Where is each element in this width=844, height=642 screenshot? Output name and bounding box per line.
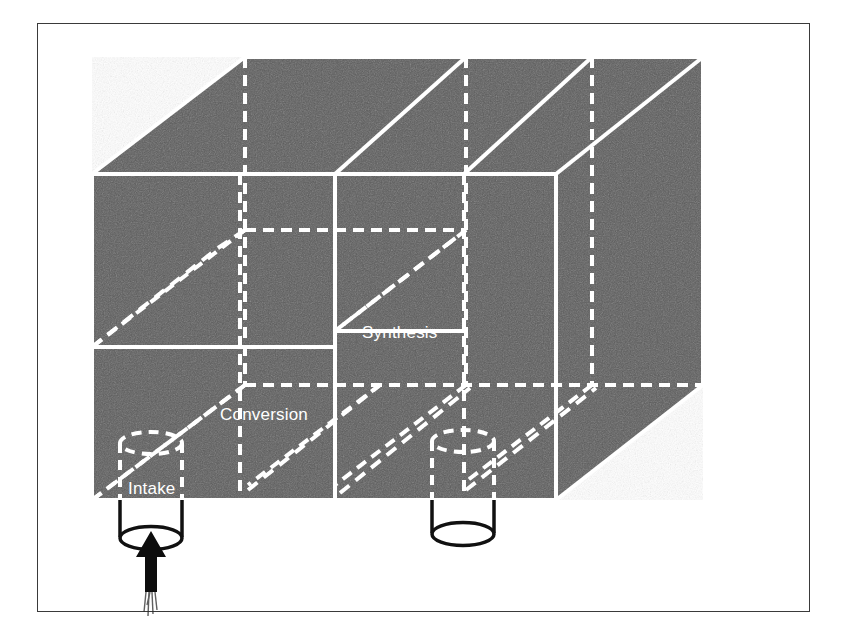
output-cylinder-visible-part [432, 500, 494, 546]
arrow-tail-fray [144, 592, 157, 616]
output-cylinder-bottom-ellipse [432, 523, 494, 546]
label-intake: Intake [128, 479, 176, 498]
figure-root: Synthesis Conversion Intake [0, 0, 844, 642]
label-synthesis: Synthesis [362, 323, 438, 342]
arrow-shaft-and-head [136, 531, 166, 592]
block-diagram: Synthesis Conversion Intake [0, 0, 844, 642]
label-conversion: Conversion [220, 405, 308, 424]
intake-flow-arrow [136, 531, 166, 616]
